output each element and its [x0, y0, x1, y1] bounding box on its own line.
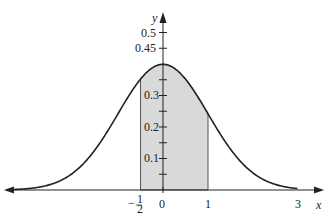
xtick-label-neg-half: − 1 2 — [128, 192, 143, 216]
svg-text:2: 2 — [137, 202, 143, 216]
xtick-label-1: 1 — [205, 197, 211, 211]
x-axis-right-arrow-icon — [314, 187, 324, 194]
ytick-label-0.45: 0.45 — [135, 41, 156, 55]
ytick-label-0.2: 0.2 — [144, 120, 159, 134]
y-axis-label: y — [151, 11, 158, 25]
xtick-label-3: 3 — [295, 197, 301, 211]
x-axis-left-arrow-icon — [4, 187, 14, 194]
x-axis-label: x — [315, 198, 322, 212]
ytick-label-0.1: 0.1 — [144, 151, 159, 165]
xtick-label-0: 0 — [159, 197, 165, 211]
ytick-label-0.5: 0.5 — [141, 26, 156, 40]
svg-text:−: − — [128, 196, 135, 210]
ytick-label-0.3: 0.3 — [144, 88, 159, 102]
normal-distribution-chart: y x 0.5 0.45 0.3 0.2 0.1 − 1 2 0 1 3 — [0, 0, 333, 223]
y-axis-arrow-icon — [160, 12, 167, 23]
